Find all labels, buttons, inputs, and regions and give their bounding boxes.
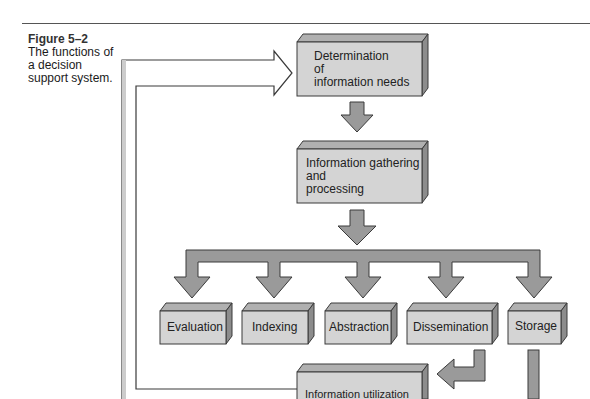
storage-label: Storage: [515, 320, 557, 333]
distribution-arrows: [174, 250, 552, 298]
determination-label: Determination of information needs: [314, 50, 409, 89]
label-line: processing: [306, 183, 419, 196]
down-arrow-1: [341, 102, 373, 132]
feedback-arrow: [122, 51, 300, 399]
feedback-shadow: [122, 60, 126, 399]
down-arrow-2: [338, 210, 376, 245]
abstraction-label: Abstraction: [329, 321, 389, 334]
label-line: Determination: [314, 50, 409, 63]
gathering-label: Information gathering and processing: [306, 157, 419, 196]
label-line: information needs: [314, 76, 409, 89]
storage-bar: [528, 350, 539, 399]
diagram-canvas: [0, 0, 590, 399]
dissemination-label: Dissemination: [413, 321, 488, 334]
left-arrow: [437, 350, 485, 389]
evaluation-label: Evaluation: [167, 321, 223, 334]
utilization-label: Information utilization: [305, 388, 409, 399]
indexing-label: Indexing: [252, 321, 297, 334]
